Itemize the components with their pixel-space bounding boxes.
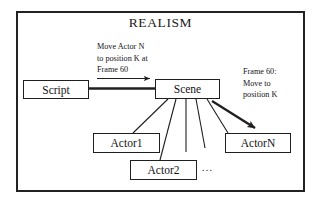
annotation-scene-to-actorn: Frame 60: Move to position K: [243, 66, 277, 101]
diagram-canvas: REALISM Script Scene Actor1 Actor2 Actor…: [0, 0, 325, 204]
node-actorn-label: ActorN: [241, 137, 276, 149]
diagram-title: REALISM: [16, 15, 305, 31]
node-scene-label: Scene: [174, 83, 201, 95]
node-actor1-label: Actor1: [111, 137, 143, 149]
node-scene[interactable]: Scene: [155, 79, 220, 99]
node-actor2[interactable]: Actor2: [130, 160, 197, 180]
node-script-label: Script: [42, 84, 69, 96]
node-script[interactable]: Script: [23, 80, 89, 99]
node-actor1[interactable]: Actor1: [93, 133, 160, 153]
actors-ellipsis: ...: [202, 163, 213, 173]
annotation-script-to-scene: Move Actor N to position K at Frame 60: [97, 41, 148, 76]
node-actorn[interactable]: ActorN: [225, 133, 291, 153]
node-actor2-label: Actor2: [148, 164, 180, 176]
